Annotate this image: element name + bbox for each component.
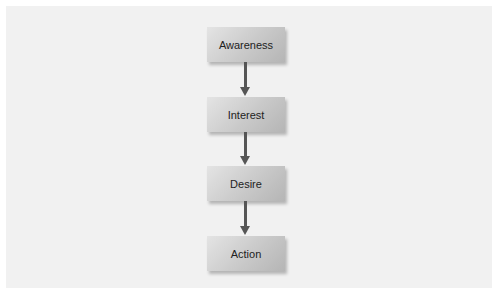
node-desire: Desire	[207, 166, 285, 201]
node-label: Awareness	[219, 39, 273, 51]
arrowhead-icon	[240, 226, 250, 235]
arrow-awareness-interest	[244, 62, 247, 89]
node-action: Action	[207, 236, 285, 271]
node-label: Interest	[228, 109, 265, 121]
node-label: Action	[231, 248, 262, 260]
arrow-interest-desire	[244, 132, 247, 158]
node-label: Desire	[230, 178, 262, 190]
arrow-desire-action	[244, 201, 247, 228]
node-awareness: Awareness	[207, 27, 285, 62]
arrowhead-icon	[240, 87, 250, 96]
arrowhead-icon	[240, 156, 250, 165]
node-interest: Interest	[207, 97, 285, 132]
